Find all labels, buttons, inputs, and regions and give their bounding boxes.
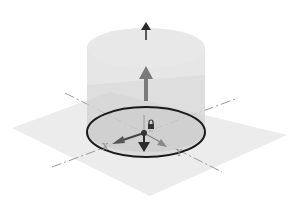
x-axis-label: X — [102, 142, 109, 152]
extrude-direction-arrow[interactable] — [141, 22, 151, 30]
extrude-diagram: X Y — [0, 0, 301, 210]
diagram-canvas: X Y — [0, 0, 301, 210]
origin-point[interactable] — [141, 130, 147, 136]
y-axis-label: Y — [175, 148, 183, 158]
extrude-distance-handle-shaft — [144, 77, 148, 101]
